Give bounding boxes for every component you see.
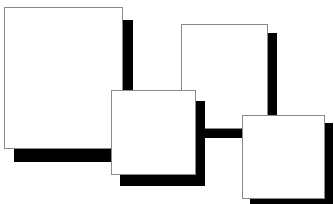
card-middle-bottom bbox=[111, 90, 196, 175]
card-bottom-right bbox=[242, 115, 325, 199]
card-large-left bbox=[4, 7, 123, 149]
